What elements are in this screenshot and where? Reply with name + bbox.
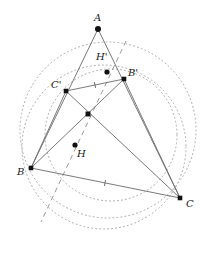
point-label-H: H [77, 149, 86, 159]
point-marker-H [72, 142, 77, 147]
point-marker-Hp [104, 69, 109, 74]
second-circle [22, 65, 186, 229]
geometry-figure: ABCB'C'H'H [0, 0, 213, 254]
point-marker-Bp [122, 77, 127, 82]
tick-CpBp [94, 82, 95, 88]
point-label-Bp: B' [128, 68, 138, 78]
point-label-Hp: H' [96, 52, 107, 62]
point-marker-O [86, 112, 91, 117]
point-label-A: A [94, 13, 101, 23]
figure-canvas [0, 0, 213, 254]
segment-A-B [31, 29, 98, 168]
point-label-B: B [17, 167, 24, 177]
point-marker-B [29, 166, 34, 171]
point-marker-A [95, 26, 101, 32]
point-label-Cp: C' [51, 80, 61, 90]
segment-Bp-C [124, 79, 180, 198]
point-marker-Cp [64, 89, 69, 94]
segment-B-C [31, 168, 180, 198]
point-marker-C [178, 196, 183, 201]
point-label-C: C [186, 199, 194, 209]
tick-BC [104, 180, 105, 186]
segment-Cp-C [66, 91, 180, 198]
